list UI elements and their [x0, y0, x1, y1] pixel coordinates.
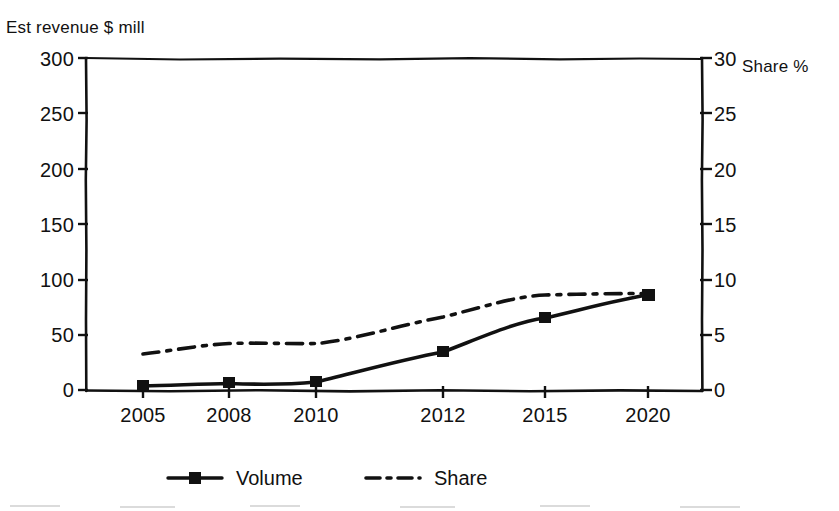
series-line-share [143, 294, 648, 355]
scan-artifacts [10, 506, 740, 507]
series-markers-volume [137, 289, 655, 391]
legend-marker-volume [168, 472, 222, 484]
data-point-volume-2005 [137, 380, 149, 391]
data-point-volume-2010 [310, 376, 322, 387]
dual-axis-line-chart: Est revenue $ mill Share % 300 250 200 1… [0, 0, 839, 511]
bottom-axis-spine [86, 390, 702, 391]
data-point-volume-2020 [642, 289, 655, 301]
data-point-volume-2015 [539, 312, 551, 323]
plot-area [0, 0, 839, 511]
series-line-volume [143, 295, 648, 386]
data-point-volume-2008 [223, 377, 235, 388]
data-point-volume-2012 [437, 346, 449, 357]
top-axis-spine [86, 58, 702, 60]
